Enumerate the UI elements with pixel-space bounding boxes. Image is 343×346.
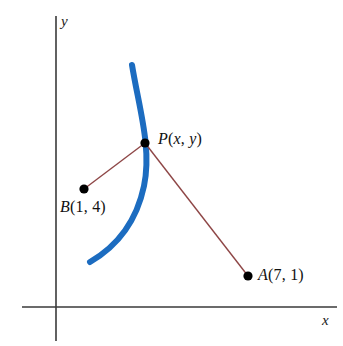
- point-a-label-arg1: 7: [274, 266, 282, 283]
- point-p-label-comma: ,: [181, 130, 189, 147]
- point-b-label-arg1: 1: [76, 198, 84, 215]
- segment-p-to-b: [84, 143, 145, 189]
- point-a-label-close: ): [298, 266, 304, 283]
- point-a-label-comma: ,: [282, 266, 290, 283]
- x-axis-label: x: [322, 313, 329, 328]
- point-a-label: A(7, 1): [258, 267, 304, 283]
- point-a: [243, 271, 252, 280]
- y-axis-label: y: [61, 14, 68, 29]
- segments-group: [84, 143, 248, 276]
- point-p-label-prefix: P: [158, 130, 168, 147]
- point-p-label: P(x, y): [158, 131, 202, 147]
- point-p-label-arg2: y: [189, 130, 196, 147]
- figure-canvas: y x P(x, y) B(1, 4) A(7, 1): [0, 0, 343, 346]
- diagram-svg: [0, 0, 343, 346]
- point-b: [79, 184, 88, 193]
- point-b-label: B(1, 4): [60, 199, 106, 215]
- point-b-label-comma: ,: [84, 198, 92, 215]
- point-p-label-close: ): [197, 130, 203, 147]
- point-p: [140, 138, 149, 147]
- point-b-label-close: ): [100, 198, 106, 215]
- point-a-label-prefix: A: [258, 266, 268, 283]
- point-p-label-arg1: x: [174, 130, 181, 147]
- axes-group: [22, 16, 337, 341]
- point-b-label-prefix: B: [60, 198, 70, 215]
- segment-p-to-a: [145, 143, 248, 276]
